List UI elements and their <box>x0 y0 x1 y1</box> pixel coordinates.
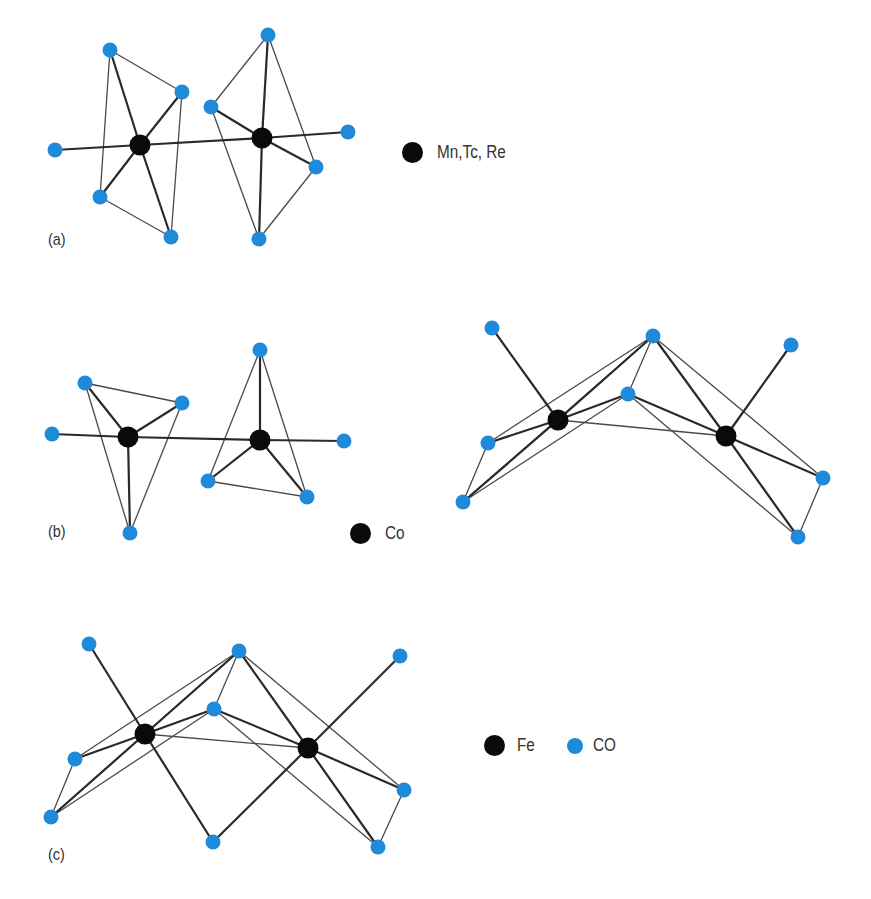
legend-co-label: CO <box>593 735 616 756</box>
metal-atom <box>130 135 151 156</box>
co-ligand-atom <box>44 810 59 825</box>
bond-line <box>308 656 400 748</box>
co-ligand-atom <box>201 474 216 489</box>
bond-line <box>75 734 145 759</box>
bond-line <box>130 403 182 533</box>
bond-line <box>260 440 307 497</box>
structure-a <box>48 28 356 247</box>
co-ligand-atom <box>252 232 267 247</box>
bond-line <box>85 383 130 533</box>
bond-line <box>558 336 653 420</box>
bond-line <box>798 478 823 537</box>
bond-line <box>100 50 110 197</box>
co-ligand-atom <box>393 649 408 664</box>
molecular-structures-diagram <box>0 0 871 899</box>
legend-label: Co <box>385 523 405 544</box>
bond-line <box>51 734 145 817</box>
metal-atom <box>250 430 271 451</box>
co-ligand-atom <box>397 783 412 798</box>
bond-line <box>211 107 259 239</box>
co-ligand-atom <box>253 343 268 358</box>
co-ligand-atom <box>103 43 118 58</box>
bond-line <box>140 138 262 145</box>
co-ligand-atom <box>68 752 83 767</box>
co-ligand-atom <box>816 471 831 486</box>
bond-line <box>140 145 171 237</box>
metal-dot-icon <box>484 735 505 756</box>
bond-line <box>726 345 791 436</box>
bond-line <box>208 481 307 497</box>
co-ligand-atom <box>123 526 138 541</box>
bond-line <box>260 440 344 441</box>
co-ligand-atom <box>371 840 386 855</box>
metal-atom <box>298 738 319 759</box>
co-ligand-atom <box>784 338 799 353</box>
co-ligand-atom <box>204 100 219 115</box>
co-ligand-atom <box>93 190 108 205</box>
co-ligand-atom <box>206 835 221 850</box>
co-ligand-atom <box>456 495 471 510</box>
bond-line <box>268 35 316 167</box>
bond-line <box>52 434 128 437</box>
bond-line <box>259 167 316 239</box>
legend-fe-co: Fe CO <box>484 735 620 756</box>
bond-line <box>145 651 239 734</box>
bond-line <box>378 790 404 847</box>
co-dot-icon <box>567 738 583 754</box>
legend-fe-label: Fe <box>517 735 556 756</box>
metal-atom <box>135 724 156 745</box>
metal-atom <box>716 426 737 447</box>
bond-line <box>558 394 628 420</box>
bond-line <box>628 394 798 537</box>
bond-line <box>259 138 262 239</box>
metal-atom <box>252 128 273 149</box>
bond-line <box>262 35 268 138</box>
legend-mn-tc-re: Mn,Tc, Re <box>402 142 518 163</box>
co-ligand-atom <box>341 125 356 140</box>
co-ligand-atom <box>82 637 97 652</box>
co-ligand-atom <box>207 702 222 717</box>
co-ligand-atom <box>485 321 500 336</box>
bond-line <box>145 709 214 734</box>
bond-line <box>145 734 213 842</box>
bond-line <box>260 350 307 497</box>
co-ligand-atom <box>164 230 179 245</box>
co-ligand-atom <box>175 396 190 411</box>
co-ligand-atom <box>78 376 93 391</box>
bond-line <box>558 420 726 436</box>
co-ligand-atom <box>481 436 496 451</box>
bond-line <box>145 734 308 748</box>
metal-dot-icon <box>350 523 371 544</box>
bond-line <box>492 328 558 420</box>
structure-c <box>44 637 412 855</box>
co-ligand-atom <box>45 427 60 442</box>
co-ligand-atom <box>232 644 247 659</box>
bond-line <box>128 437 130 533</box>
bond-line <box>488 420 558 443</box>
bond-line <box>171 92 182 237</box>
co-ligand-atom <box>261 28 276 43</box>
metal-dot-icon <box>402 142 423 163</box>
bond-line <box>211 35 268 107</box>
bond-line <box>239 651 404 790</box>
co-ligand-atom <box>646 329 661 344</box>
panel-a-label: (a) <box>48 230 66 250</box>
co-ligand-atom <box>300 490 315 505</box>
legend-co-metal: Co <box>350 523 408 544</box>
co-ligand-atom <box>621 387 636 402</box>
bond-line <box>213 748 308 842</box>
structure-b <box>45 321 831 545</box>
bond-line <box>89 644 145 734</box>
bond-line <box>128 437 260 440</box>
panel-b-label: (b) <box>48 522 66 542</box>
co-ligand-atom <box>337 434 352 449</box>
co-ligand-atom <box>48 143 63 158</box>
legend-label: Mn,Tc, Re <box>437 142 506 163</box>
bond-line <box>55 145 140 150</box>
panel-c-label: (c) <box>48 845 65 865</box>
bond-line <box>653 336 823 478</box>
metal-atom <box>118 427 139 448</box>
metal-atom <box>548 410 569 431</box>
bond-line <box>463 420 558 502</box>
co-ligand-atom <box>175 85 190 100</box>
